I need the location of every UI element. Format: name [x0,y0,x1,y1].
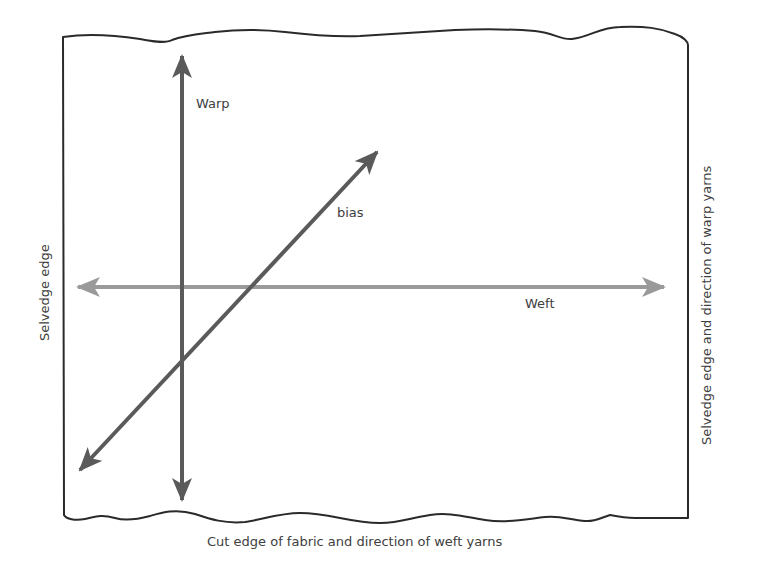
bias-arrow [80,152,377,470]
warp-label: Warp [196,97,230,110]
fabric-outline [63,27,688,523]
weft-label: Weft [525,297,555,310]
fabric-diagram [0,0,761,563]
cut-edge-label: Cut edge of fabric and direction of weft… [207,535,502,548]
bias-label: bias [337,206,364,219]
left-selvedge-label: Selvedge edge [38,244,51,341]
right-selvedge-label: Selvedge edge and direction of warp yarn… [700,166,713,445]
